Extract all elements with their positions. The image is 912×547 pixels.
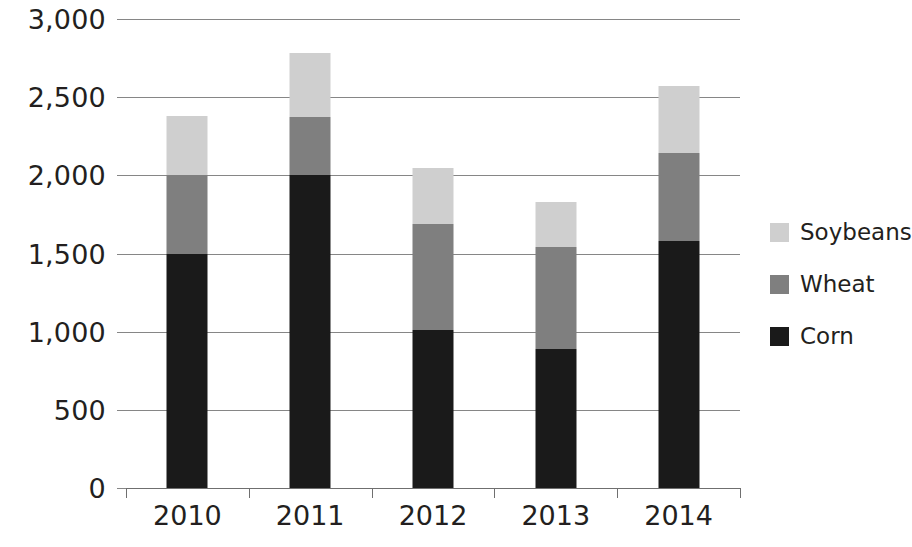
bar-segment-wheat-2012[interactable] <box>412 224 453 330</box>
y-tick-mark-2500 <box>117 97 126 98</box>
bar-stack[interactable] <box>412 168 453 488</box>
bar-segment-corn-2014[interactable] <box>658 241 699 488</box>
legend-label: Soybeans <box>800 221 912 244</box>
bar-segment-wheat-2013[interactable] <box>535 247 576 349</box>
legend-swatch-icon <box>770 223 789 242</box>
legend-item-wheat[interactable]: Wheat <box>770 258 906 310</box>
y-tick-label: 1,500 <box>28 240 106 267</box>
x-tick-label-2013: 2013 <box>521 502 590 529</box>
bars-layer <box>126 19 740 488</box>
bar-stack[interactable] <box>658 86 699 488</box>
bar-stack[interactable] <box>167 116 208 488</box>
x-tick-mark <box>249 488 250 498</box>
legend: SoybeansWheatCorn <box>770 206 906 362</box>
bar-segment-soybeans-2012[interactable] <box>412 168 453 224</box>
legend-item-soybeans[interactable]: Soybeans <box>770 206 906 258</box>
bar-segment-corn-2011[interactable] <box>290 175 331 488</box>
x-tick-mark <box>740 488 741 498</box>
y-tick-mark-0 <box>117 488 126 489</box>
y-tick-label: 2,000 <box>28 162 106 189</box>
y-tick-label: 3,000 <box>28 6 106 33</box>
bar-segment-wheat-2014[interactable] <box>658 153 699 241</box>
x-tick-label-2010: 2010 <box>153 502 222 529</box>
bar-group-2013[interactable] <box>494 19 617 488</box>
bar-segment-corn-2012[interactable] <box>412 330 453 488</box>
bar-segment-wheat-2011[interactable] <box>290 117 331 176</box>
x-tick-mark <box>126 488 127 498</box>
y-tick-mark-2000 <box>117 175 126 176</box>
y-tick-label: 500 <box>54 396 106 423</box>
bar-segment-soybeans-2011[interactable] <box>290 53 331 117</box>
legend-swatch-icon <box>770 275 789 294</box>
y-tick-mark-3000 <box>117 19 126 20</box>
bar-group-2010[interactable] <box>126 19 249 488</box>
bar-segment-soybeans-2013[interactable] <box>535 202 576 247</box>
x-tick-label-2012: 2012 <box>399 502 468 529</box>
y-tick-mark-500 <box>117 410 126 411</box>
bar-stack[interactable] <box>290 53 331 488</box>
bar-group-2011[interactable] <box>249 19 372 488</box>
y-tick-label: 1,000 <box>28 318 106 345</box>
bar-group-2012[interactable] <box>372 19 495 488</box>
x-tick-mark <box>372 488 373 498</box>
y-tick-mark-1000 <box>117 332 126 333</box>
bar-segment-wheat-2010[interactable] <box>167 175 208 253</box>
x-tick-mark <box>617 488 618 498</box>
bar-stack[interactable] <box>535 202 576 488</box>
x-axis-ticks <box>126 488 740 498</box>
bar-segment-corn-2013[interactable] <box>535 349 576 488</box>
bar-group-2014[interactable] <box>617 19 740 488</box>
y-axis: 05001,0001,5002,0002,5003,000 <box>0 0 118 547</box>
y-tick-mark-1500 <box>117 254 126 255</box>
plot-area <box>126 19 740 488</box>
legend-label: Corn <box>800 325 854 348</box>
legend-item-corn[interactable]: Corn <box>770 310 906 362</box>
x-tick-label-2014: 2014 <box>644 502 713 529</box>
x-tick-label-2011: 2011 <box>276 502 345 529</box>
y-tick-label: 2,500 <box>28 84 106 111</box>
legend-label: Wheat <box>800 273 875 296</box>
bar-segment-soybeans-2014[interactable] <box>658 86 699 153</box>
y-tick-label: 0 <box>89 475 106 502</box>
legend-swatch-icon <box>770 327 789 346</box>
bar-segment-corn-2010[interactable] <box>167 254 208 489</box>
x-tick-mark <box>494 488 495 498</box>
x-axis-labels: 20102011201220132014 <box>126 500 740 544</box>
bar-segment-soybeans-2010[interactable] <box>167 116 208 175</box>
